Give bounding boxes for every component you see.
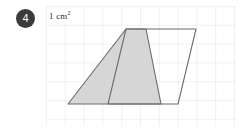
grid-and-figure-svg — [46, 6, 236, 126]
unit-area-label-exponent: 2 — [68, 10, 71, 16]
unit-area-label: 1 cm2 — [48, 11, 72, 22]
unit-area-label-text: 1 cm — [49, 11, 68, 21]
figure-panel: 1 cm2 — [46, 6, 236, 126]
question-figure-page: 4 1 cm2 — [0, 0, 241, 130]
question-number-badge: 4 — [16, 9, 35, 28]
